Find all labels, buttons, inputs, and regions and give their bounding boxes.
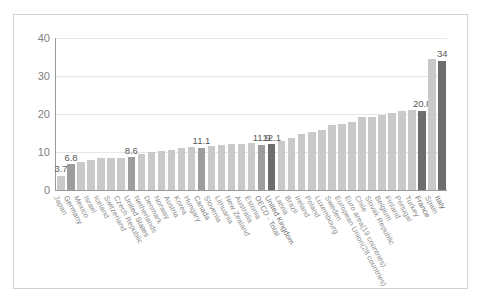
bar[interactable] bbox=[77, 162, 84, 191]
bar[interactable] bbox=[148, 152, 155, 190]
bar-slot[interactable] bbox=[287, 38, 297, 190]
bar-slot[interactable] bbox=[277, 38, 287, 190]
category-label-slot: Latvia bbox=[277, 192, 287, 288]
bar-slot[interactable] bbox=[397, 38, 407, 190]
bar-slot[interactable] bbox=[146, 38, 156, 190]
bar-slot[interactable] bbox=[166, 38, 176, 190]
bar[interactable] bbox=[138, 154, 145, 190]
bar[interactable] bbox=[198, 148, 205, 190]
bar[interactable] bbox=[208, 146, 215, 190]
bar[interactable] bbox=[438, 61, 445, 190]
bar[interactable] bbox=[358, 117, 365, 190]
bar-slot[interactable] bbox=[76, 38, 86, 190]
category-label-slot: Portugal bbox=[397, 192, 407, 288]
bar[interactable] bbox=[318, 130, 325, 190]
bar-series: 3.76.88.611.111.912.120.834 bbox=[56, 38, 447, 190]
bar-slot[interactable] bbox=[176, 38, 186, 190]
bar[interactable] bbox=[228, 144, 235, 190]
bar[interactable] bbox=[288, 138, 295, 190]
bar[interactable] bbox=[107, 158, 114, 190]
bar-slot[interactable]: 11.1 bbox=[196, 38, 206, 190]
category-label-slot: Italy bbox=[437, 192, 447, 288]
bar[interactable] bbox=[188, 147, 195, 190]
bar[interactable] bbox=[168, 150, 175, 190]
bar-slot[interactable] bbox=[307, 38, 317, 190]
bar-slot[interactable] bbox=[377, 38, 387, 190]
bar-slot[interactable]: 12.1 bbox=[267, 38, 277, 190]
bar-slot[interactable] bbox=[427, 38, 437, 190]
y-axis-tick-labels: 010203040 bbox=[24, 38, 50, 190]
y-axis-tick-label: 20 bbox=[38, 108, 50, 120]
bar[interactable] bbox=[408, 110, 415, 190]
bar[interactable] bbox=[117, 158, 124, 190]
bar[interactable] bbox=[298, 134, 305, 190]
bar-slot[interactable] bbox=[407, 38, 417, 190]
bar-slot[interactable]: 11.9 bbox=[257, 38, 267, 190]
category-label-slot: Japan bbox=[56, 192, 66, 288]
bar[interactable] bbox=[178, 148, 185, 190]
bar[interactable] bbox=[368, 117, 375, 190]
bar-slot[interactable] bbox=[227, 38, 237, 190]
bar[interactable] bbox=[238, 144, 245, 190]
bar[interactable] bbox=[388, 113, 395, 190]
category-label-slot: Czech Republic bbox=[116, 192, 126, 288]
bar-slot[interactable]: 6.8 bbox=[66, 38, 76, 190]
bar[interactable] bbox=[128, 157, 135, 190]
bar[interactable] bbox=[67, 164, 74, 190]
bar[interactable] bbox=[258, 145, 265, 190]
bar[interactable] bbox=[248, 143, 255, 191]
category-label-slot: Euro area(19 countries) bbox=[347, 192, 357, 288]
category-label-slot: Lithuania bbox=[217, 192, 227, 288]
bar[interactable] bbox=[418, 111, 425, 190]
bar[interactable] bbox=[97, 158, 104, 190]
bar-slot[interactable]: 34 bbox=[437, 38, 447, 190]
bar[interactable] bbox=[378, 115, 385, 190]
bar-slot[interactable] bbox=[337, 38, 347, 190]
bar-slot[interactable]: 8.6 bbox=[126, 38, 136, 190]
bar[interactable] bbox=[87, 160, 94, 190]
bar-slot[interactable] bbox=[357, 38, 367, 190]
bar-slot[interactable] bbox=[96, 38, 106, 190]
bar[interactable] bbox=[328, 125, 335, 190]
bar-slot[interactable]: 20.8 bbox=[417, 38, 427, 190]
bar[interactable] bbox=[158, 151, 165, 190]
bar[interactable] bbox=[268, 144, 275, 190]
bar-slot[interactable] bbox=[206, 38, 216, 190]
category-label-slot: Germany bbox=[66, 192, 76, 288]
category-label-slot: Finland bbox=[387, 192, 397, 288]
category-label-slot: Australia bbox=[237, 192, 247, 288]
bar-slot[interactable] bbox=[186, 38, 196, 190]
bar[interactable] bbox=[57, 176, 64, 190]
y-axis-tick-label: 0 bbox=[44, 184, 50, 196]
bar-slot[interactable]: 3.7 bbox=[56, 38, 66, 190]
bar[interactable] bbox=[428, 59, 435, 190]
bar[interactable] bbox=[308, 132, 315, 190]
category-label-slot: Iceland bbox=[96, 192, 106, 288]
bar-slot[interactable] bbox=[136, 38, 146, 190]
bar-slot[interactable] bbox=[317, 38, 327, 190]
bar-slot[interactable] bbox=[217, 38, 227, 190]
bar[interactable] bbox=[338, 124, 345, 190]
bar[interactable] bbox=[348, 122, 355, 190]
bar-slot[interactable] bbox=[116, 38, 126, 190]
bar-slot[interactable] bbox=[347, 38, 357, 190]
bar-slot[interactable] bbox=[367, 38, 377, 190]
bar[interactable] bbox=[398, 111, 405, 190]
bar-value-label: 34 bbox=[437, 49, 448, 59]
category-label-slot: United States bbox=[126, 192, 136, 288]
category-label-slot: Chile bbox=[357, 192, 367, 288]
bar[interactable] bbox=[218, 145, 225, 190]
bar-slot[interactable] bbox=[106, 38, 116, 190]
category-label-slot: Denmark bbox=[146, 192, 156, 288]
bar-slot[interactable] bbox=[247, 38, 257, 190]
category-label-slot: Austria bbox=[166, 192, 176, 288]
category-label-slot: Belgium bbox=[377, 192, 387, 288]
bar-slot[interactable] bbox=[387, 38, 397, 190]
bar-slot[interactable] bbox=[327, 38, 337, 190]
bar-slot[interactable] bbox=[86, 38, 96, 190]
bar-slot[interactable] bbox=[237, 38, 247, 190]
bar-slot[interactable] bbox=[156, 38, 166, 190]
bar-slot[interactable] bbox=[297, 38, 307, 190]
category-label-slot: Norway bbox=[156, 192, 166, 288]
bar[interactable] bbox=[278, 141, 285, 190]
